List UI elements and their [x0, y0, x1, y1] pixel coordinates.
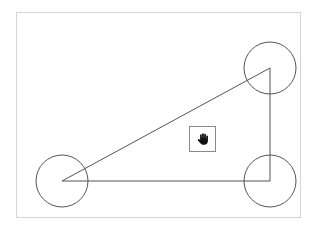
triangle-shape[interactable] [62, 68, 270, 181]
triangle-diagram [0, 0, 317, 232]
diagram-canvas [0, 0, 317, 232]
pan-tool-button[interactable] [189, 126, 216, 152]
hand-icon [196, 132, 210, 146]
